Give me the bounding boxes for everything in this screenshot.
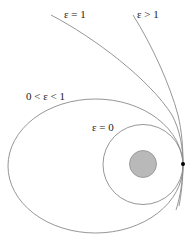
perigee-point-icon	[181, 162, 185, 166]
orbit-diagram: ε = 1 ε > 1 0 < ε < 1 ε = 0	[0, 0, 190, 242]
label-ellipse: 0 < ε < 1	[26, 90, 65, 102]
label-hyperbola: ε > 1	[137, 8, 159, 20]
label-parabola: ε = 1	[64, 8, 86, 20]
planet-icon	[130, 151, 157, 178]
parabolic-trajectory	[51, 15, 183, 210]
label-circle: ε = 0	[92, 121, 114, 133]
